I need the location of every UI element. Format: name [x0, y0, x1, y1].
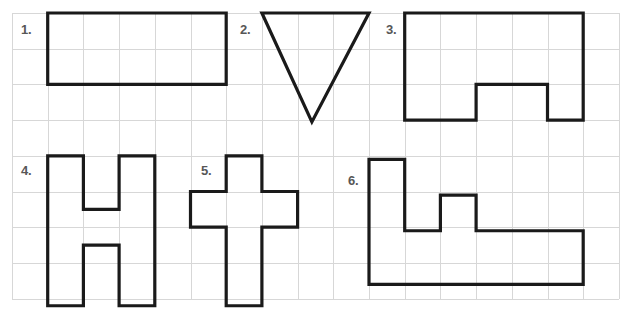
rectangle	[48, 13, 227, 84]
cross-shape	[191, 156, 298, 306]
l-shape-with-bump	[369, 159, 583, 284]
rectangle-with-bottom-notch	[405, 13, 584, 120]
worksheet-canvas: 1. 2. 3. 4. 5. 6.	[0, 0, 623, 322]
inverted-triangle	[262, 13, 369, 122]
shapes-layer	[0, 0, 623, 322]
letter-h-shape	[48, 156, 155, 306]
